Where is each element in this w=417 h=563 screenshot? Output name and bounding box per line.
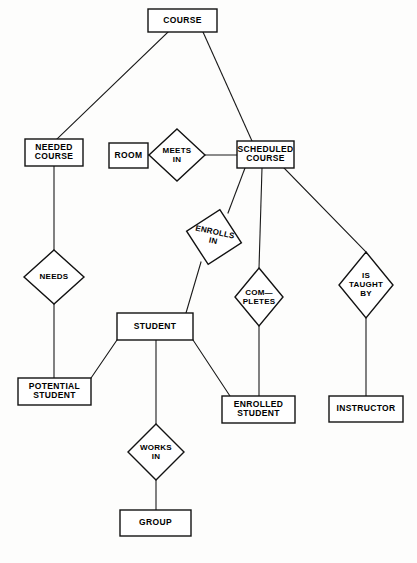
entity-label-instructor: INSTRUCTOR [336, 403, 395, 413]
entity-label-enrolled_student: ENROLLEDSTUDENT [234, 399, 284, 419]
edge-scheduled_course-to-is_taught_by [284, 168, 366, 252]
entity-label-course: COURSE [163, 15, 201, 25]
entity-label-group-line: GROUP [139, 517, 172, 527]
connection-line [228, 168, 245, 213]
edge-scheduled_course-to-enrolls_in [228, 168, 245, 213]
relationship-label-completes: COM—PLETES [243, 288, 276, 306]
relationship-label-completes-line: COM— [245, 288, 273, 297]
connection-line [57, 32, 168, 139]
entity-label-student-line: STUDENT [134, 321, 177, 331]
relationship-needs[interactable]: NEEDS [24, 250, 84, 304]
entity-label-enrolled_student-line: STUDENT [237, 409, 280, 419]
edge-course-to-needed_course [57, 32, 168, 139]
entity-label-potential_student: POTENTIALSTUDENT [29, 381, 80, 401]
relationship-completes[interactable]: COM—PLETES [235, 268, 283, 326]
relationship-label-needs: NEEDS [40, 272, 69, 281]
entity-label-enrolled_student-line: ENROLLED [234, 399, 284, 409]
relationship-label-is_taught_by-line: BY [360, 289, 372, 298]
entity-course[interactable]: COURSE [148, 9, 217, 32]
entity-label-scheduled_course-line: SCHEDULED [237, 144, 293, 154]
relationship-label-is_taught_by-line: TAUGHT [349, 280, 383, 289]
er-diagram-canvas: COURSENEEDEDCOURSEROOMSCHEDULEDCOURSESTU… [0, 0, 417, 563]
entity-student[interactable]: STUDENT [117, 313, 193, 340]
relationship-label-works_in-line: IN [152, 452, 161, 461]
entity-label-needed_course: NEEDEDCOURSE [35, 142, 73, 162]
entity-group[interactable]: GROUP [120, 510, 191, 536]
entity-label-instructor-line: INSTRUCTOR [336, 403, 395, 413]
connection-line [284, 168, 366, 252]
entity-label-room-line: ROOM [115, 150, 143, 160]
connection-line [203, 32, 252, 141]
relationship-label-needs-line: NEEDS [40, 272, 69, 281]
entity-label-group: GROUP [139, 517, 172, 527]
relationship-label-meets_in-line: IN [173, 155, 182, 164]
edge-student-to-enrolled_student [193, 340, 230, 396]
relationship-label-is_taught_by-line: IS [362, 271, 370, 280]
relationship-meets_in[interactable]: MEETSIN [149, 129, 205, 181]
edge-enrolls_in-to-student [186, 262, 201, 313]
connection-line [259, 168, 262, 268]
relationship-is_taught_by[interactable]: ISTAUGHTBY [339, 252, 393, 318]
connection-line [193, 340, 230, 396]
relationship-enrolls_in[interactable]: ENROLLSIN [181, 204, 247, 270]
connection-lines-layer [54, 32, 366, 510]
entity-instructor[interactable]: INSTRUCTOR [329, 396, 403, 422]
edge-course-to-scheduled_course [203, 32, 252, 141]
entity-label-course-line: COURSE [163, 15, 201, 25]
edge-student-to-potential_student [91, 340, 117, 378]
er-diagram-svg: COURSENEEDEDCOURSEROOMSCHEDULEDCOURSESTU… [0, 0, 417, 563]
relationship-works_in[interactable]: WORKSIN [128, 424, 184, 480]
entity-label-room: ROOM [115, 150, 143, 160]
edge-scheduled_course-to-completes [259, 168, 262, 268]
relationship-label-works_in-line: WORKS [140, 443, 172, 452]
entity-label-needed_course-line: NEEDED [35, 142, 73, 152]
connection-line [91, 340, 117, 378]
entity-label-needed_course-line: COURSE [35, 152, 73, 162]
entity-scheduled_course[interactable]: SCHEDULEDCOURSE [237, 141, 294, 168]
connection-line [186, 262, 201, 313]
relationship-label-meets_in-line: MEETS [163, 146, 192, 155]
entity-label-scheduled_course-line: COURSE [246, 154, 284, 164]
entity-needed_course[interactable]: NEEDEDCOURSE [25, 139, 83, 166]
entity-label-student: STUDENT [134, 321, 177, 331]
entity-label-potential_student-line: POTENTIAL [29, 381, 80, 391]
entity-enrolled_student[interactable]: ENROLLEDSTUDENT [222, 396, 295, 423]
entity-potential_student[interactable]: POTENTIALSTUDENT [18, 378, 91, 405]
relationship-label-completes-line: PLETES [243, 297, 276, 306]
entity-room[interactable]: ROOM [109, 143, 148, 168]
nodes-layer: COURSENEEDEDCOURSEROOMSCHEDULEDCOURSESTU… [18, 9, 403, 536]
entity-label-potential_student-line: STUDENT [33, 391, 76, 401]
